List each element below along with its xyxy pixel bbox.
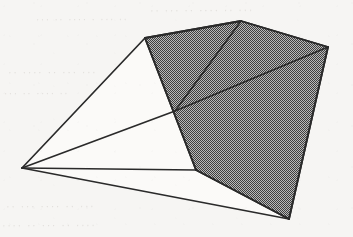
polyhedron-figure	[0, 0, 353, 237]
figure-canvas: ·· ··· ·· ···· ·· ······ ·· ···· · ··· ·…	[0, 0, 353, 237]
